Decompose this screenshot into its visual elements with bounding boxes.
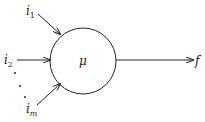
input-label-1: i1 (26, 4, 35, 20)
input-arrow-m (37, 84, 60, 105)
ellipsis-dot (24, 96, 26, 98)
ellipsis-dot (19, 85, 21, 87)
ellipsis-dot (14, 72, 16, 74)
input-arrow-1 (38, 14, 60, 34)
neuron-diagram: μ i1 i2 im f (0, 0, 205, 122)
input-label-2: i2 (4, 53, 13, 69)
output-label: f (194, 54, 202, 68)
node-label: μ (79, 54, 87, 68)
input-label-m: im (26, 102, 38, 118)
